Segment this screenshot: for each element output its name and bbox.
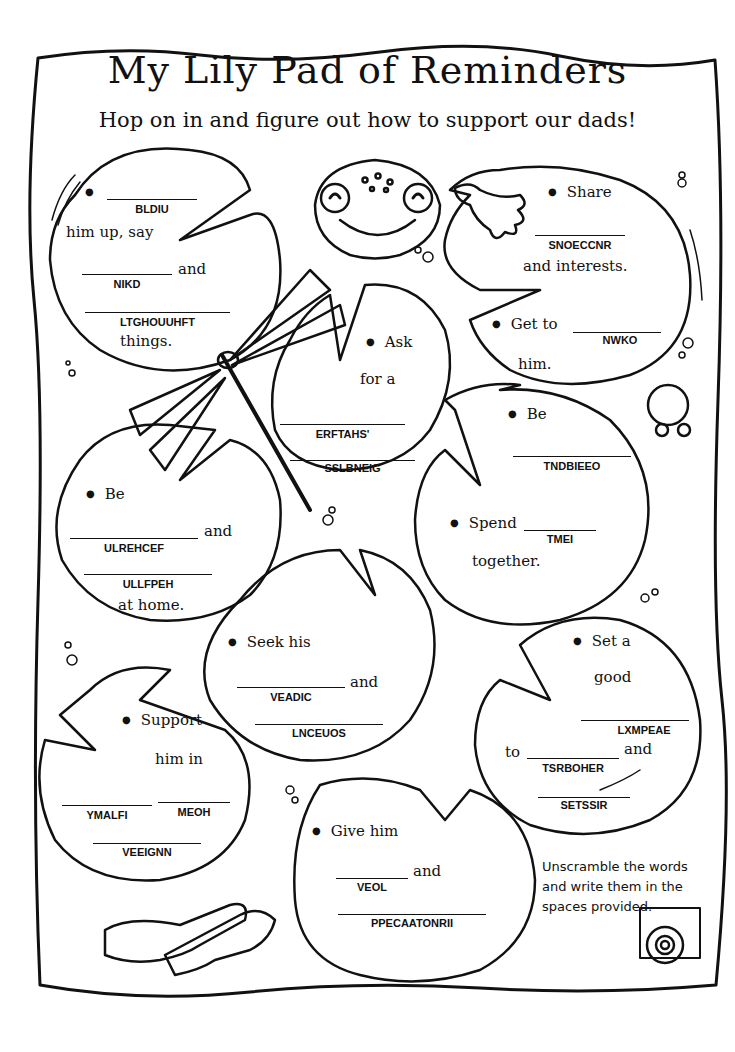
page-subtitle: Hop on in and figure out how to support … bbox=[0, 108, 735, 132]
pad-text: Give him bbox=[312, 822, 398, 840]
answer-blank[interactable] bbox=[524, 530, 596, 531]
answer-blank[interactable] bbox=[255, 724, 383, 725]
scrambled-word: LNCEUOS bbox=[255, 727, 383, 739]
scrambled-word: MEOH bbox=[158, 806, 230, 818]
pad-text: and bbox=[624, 740, 652, 758]
pad-text: and bbox=[350, 673, 378, 691]
scrambled-word: NWKO bbox=[595, 334, 645, 346]
scrambled-word: LTGHOUUHFT bbox=[85, 316, 230, 328]
scrambled-word: TNDBIEEO bbox=[513, 460, 631, 472]
scrambled-word: TMEI bbox=[535, 533, 585, 545]
pad-text: Be bbox=[508, 405, 547, 423]
turtle-icon bbox=[648, 385, 690, 436]
answer-blank[interactable] bbox=[538, 797, 630, 798]
answer-blank[interactable] bbox=[82, 274, 172, 275]
pad-text: Seek his bbox=[228, 633, 311, 651]
pad-text: Support bbox=[122, 711, 202, 729]
pad-text: together. bbox=[472, 552, 540, 570]
scrambled-word: SETSSIR bbox=[538, 799, 630, 811]
frog-hand-icon bbox=[455, 184, 525, 238]
answer-blank[interactable] bbox=[290, 460, 415, 461]
answer-blank[interactable] bbox=[336, 878, 408, 879]
pad-text: him. bbox=[518, 355, 551, 373]
pad-text: for a bbox=[360, 370, 395, 388]
scrambled-word: SSLBNEIG bbox=[290, 462, 415, 474]
pad-text: and interests. bbox=[523, 257, 628, 275]
bullet bbox=[85, 183, 104, 201]
scrambled-word: ULREHCEF bbox=[70, 542, 198, 554]
scrambled-word: YMALFI bbox=[62, 809, 152, 821]
answer-blank[interactable] bbox=[70, 538, 198, 539]
scrambled-word: BLDIU bbox=[107, 203, 197, 215]
pad-text: things. bbox=[120, 332, 172, 350]
scrambled-word: NIKD bbox=[82, 278, 172, 290]
answer-blank[interactable] bbox=[573, 332, 661, 333]
scrambled-word: ULLFPEH bbox=[84, 578, 212, 590]
scrambled-word: VEOL bbox=[336, 881, 408, 893]
answer-blank[interactable] bbox=[237, 687, 345, 688]
answer-blank[interactable] bbox=[535, 235, 625, 236]
pad-text: Set a bbox=[573, 632, 631, 650]
scrambled-word: PPECAATONRII bbox=[338, 917, 486, 929]
answer-blank[interactable] bbox=[84, 574, 212, 575]
scrambled-word: LXMPEAE bbox=[590, 724, 698, 736]
scrambled-word: SNOECCNR bbox=[535, 239, 625, 251]
pad-text: Be bbox=[86, 485, 125, 503]
answer-blank[interactable] bbox=[93, 843, 201, 844]
answer-blank[interactable] bbox=[338, 914, 486, 915]
pad-text: and bbox=[413, 862, 441, 880]
page-title: My Lily Pad of Reminders bbox=[0, 48, 735, 92]
pad-text: him in bbox=[155, 750, 203, 768]
dragonfly-icon bbox=[130, 270, 345, 510]
pad-text: him up, say bbox=[66, 223, 153, 241]
frog-feet-icon bbox=[105, 904, 275, 975]
frog-icon bbox=[315, 160, 440, 259]
scrambled-word: ERFTAHS' bbox=[280, 428, 405, 440]
answer-blank[interactable] bbox=[85, 312, 230, 313]
answer-blank[interactable] bbox=[158, 802, 230, 803]
pad-text: Get to bbox=[492, 315, 557, 333]
answer-blank[interactable] bbox=[280, 424, 405, 425]
instructions: Unscramble the words and write them in t… bbox=[542, 857, 702, 917]
pad-text: good bbox=[594, 668, 631, 686]
pad-text: Spend bbox=[450, 514, 517, 532]
answer-blank[interactable] bbox=[527, 758, 619, 759]
scrambled-word: VEEIGNN bbox=[93, 846, 201, 858]
pad-text: and bbox=[178, 260, 206, 278]
answer-blank[interactable] bbox=[62, 805, 152, 806]
pad-text: to bbox=[505, 743, 520, 761]
pad-text: Ask bbox=[366, 333, 412, 351]
scrambled-word: TSRBOHER bbox=[527, 762, 619, 774]
pad-text: and bbox=[204, 522, 232, 540]
scrambled-word: VEADIC bbox=[237, 691, 345, 703]
pad-text: at home. bbox=[118, 596, 184, 614]
pad-text: Share bbox=[548, 183, 612, 201]
answer-blank[interactable] bbox=[107, 199, 197, 200]
answer-blank[interactable] bbox=[513, 456, 631, 457]
answer-blank[interactable] bbox=[581, 720, 689, 721]
